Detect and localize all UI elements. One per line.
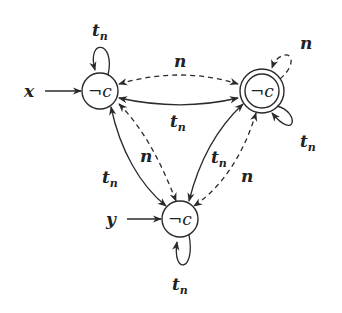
label-n: n: [140, 146, 152, 166]
label-tn: tn: [211, 147, 227, 170]
state-diagram: ¬c ¬c ¬c x y tn n tn tn: [0, 0, 342, 313]
input-y-label: y: [105, 209, 117, 229]
self-loop-c-tn: tn: [172, 235, 190, 297]
label-tn: tn: [92, 20, 108, 43]
label-tn: tn: [172, 274, 188, 297]
label-tn: tn: [170, 111, 186, 134]
node-a: ¬c: [82, 73, 118, 109]
input-y-arrow: y: [105, 209, 161, 229]
node-a-label: ¬c: [88, 81, 112, 101]
label-n: n: [241, 166, 253, 186]
self-loop-b-n: n: [272, 33, 312, 79]
label-n: n: [174, 51, 186, 71]
node-b-label: ¬c: [250, 81, 274, 101]
label-tn: tn: [102, 167, 118, 190]
edge-a-b-tn: tn: [119, 98, 238, 134]
label-tn: tn: [300, 131, 316, 154]
edge-a-c-n: n: [119, 104, 176, 201]
node-c: ¬c: [162, 201, 198, 237]
label-n: n: [300, 33, 312, 53]
self-loop-a-tn: tn: [92, 20, 109, 75]
input-x-arrow: x: [23, 81, 81, 101]
input-x-label: x: [23, 81, 35, 101]
self-loop-b-tn: tn: [272, 106, 316, 154]
edge-a-b-n: n: [119, 51, 238, 84]
node-c-label: ¬c: [168, 209, 192, 229]
